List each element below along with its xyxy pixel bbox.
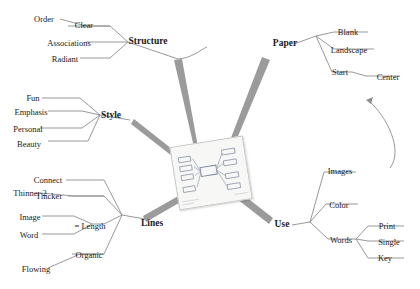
connector-personal <box>40 115 100 128</box>
node-personal: Personal <box>13 125 42 134</box>
node-print: Print <box>379 222 396 231</box>
node-beauty: Beauty <box>17 140 41 149</box>
connector-connect <box>66 180 122 215</box>
branch-use: Use <box>275 220 290 230</box>
center-mind-map-thumbnail <box>169 136 252 211</box>
node-images: Images <box>328 167 353 176</box>
node-center: Center <box>377 73 400 82</box>
node-words: Words <box>330 236 352 245</box>
branch-structure: Structure <box>129 37 168 47</box>
node-landscape: Landscape <box>331 46 367 55</box>
node-image: Image <box>19 213 40 222</box>
node-blank: Blank <box>338 28 358 37</box>
node-connect: Connect <box>34 176 62 185</box>
connector-fun <box>42 98 100 115</box>
node-emphasis: Emphasis <box>14 108 47 117</box>
connector-paper-spine <box>294 36 316 44</box>
connector-use-spine <box>292 222 310 225</box>
connector-emphasis <box>48 111 100 115</box>
node-single: Single <box>378 238 400 247</box>
node-start: Start <box>332 68 348 77</box>
node-equal-length: = Length <box>75 222 106 231</box>
node-flowing: Flowing <box>22 265 50 274</box>
node-fun: Fun <box>26 94 39 103</box>
node-organic: Organic <box>75 251 102 260</box>
node-thinner-2: Thinner 2 <box>13 189 46 198</box>
mind-map-diagram: Order Clear Associations Radiant Structu… <box>0 0 420 289</box>
node-associations: Associations <box>47 39 90 48</box>
node-word: Word <box>20 231 39 240</box>
thumbnail-sketch <box>171 137 252 209</box>
branch-style: Style <box>101 111 121 121</box>
images-to-center-arrow <box>366 97 395 168</box>
connector-structure-hub <box>178 47 207 59</box>
branch-paper: Paper <box>273 39 297 49</box>
node-color: Color <box>329 201 348 210</box>
node-order: Order <box>34 15 54 24</box>
node-clear: Clear <box>75 21 93 30</box>
node-radiant: Radiant <box>52 55 78 64</box>
node-key: Key <box>378 254 392 263</box>
branch-lines: Lines <box>141 219 163 229</box>
